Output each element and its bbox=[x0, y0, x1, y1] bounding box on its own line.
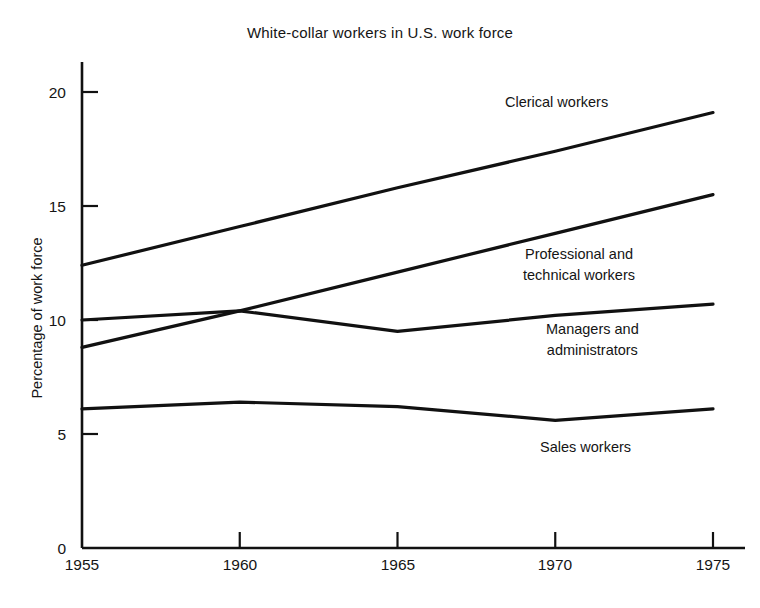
axes bbox=[82, 62, 745, 548]
x-tick-marks bbox=[240, 532, 713, 548]
series-line-clerical bbox=[82, 113, 713, 266]
chart-canvas bbox=[0, 0, 760, 608]
series-line-professional bbox=[82, 195, 713, 348]
series-line-sales bbox=[82, 402, 713, 420]
series-line-managers bbox=[82, 304, 713, 331]
chart-figure: White-collar workers in U.S. work force … bbox=[0, 0, 760, 608]
series-polylines bbox=[82, 113, 713, 421]
